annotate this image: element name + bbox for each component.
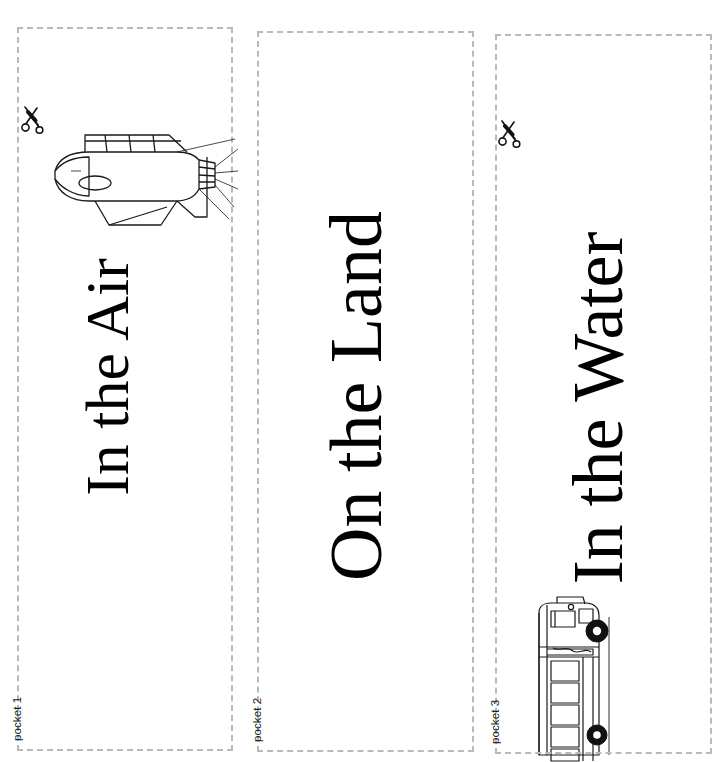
pocket-card-3[interactable]: In the Water pocket 3 — [495, 34, 712, 754]
pocket-number-label-2: pocket 2 — [251, 698, 263, 742]
pocket-title-1: In the Air — [76, 258, 138, 496]
pocket-card-2[interactable]: On the Land pocket 2 — [257, 31, 474, 752]
pocket-number-label-1: pocket 1 — [11, 697, 23, 741]
pocket-card-1[interactable]: In the Air pocket 1 — [17, 27, 233, 751]
scissors-icon — [18, 103, 52, 141]
top-watermark — [398, 0, 718, 6]
pocket-title-2: On the Land — [319, 211, 393, 581]
pocket-title-3: In the Water — [562, 232, 634, 585]
worksheet-page: In the Air pocket 1 — [0, 0, 726, 762]
pocket-number-label-3: pocket 3 — [489, 700, 501, 744]
airplane-illustration — [49, 127, 239, 231]
